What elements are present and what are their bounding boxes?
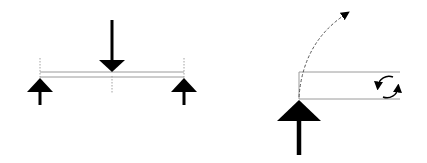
cantilever-beam-panel xyxy=(277,14,400,155)
right-support-arrow-icon xyxy=(171,78,197,105)
beam-diagram-svg xyxy=(0,0,427,163)
diagram-canvas xyxy=(0,0,427,163)
simply-supported-beam-panel xyxy=(27,20,197,105)
fixed-support-arrow-icon xyxy=(277,100,321,155)
center-load-arrow-icon xyxy=(99,20,125,72)
cantilever-beam-outline xyxy=(299,72,400,99)
left-support-arrow-icon xyxy=(27,78,53,105)
rotation-path-dashed-arrow-icon xyxy=(299,14,346,97)
moment-rotation-icon xyxy=(378,76,398,98)
